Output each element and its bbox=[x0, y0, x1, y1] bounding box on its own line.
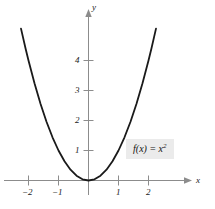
y-axis-arrowhead bbox=[85, 9, 91, 17]
y-axis-label: y bbox=[92, 3, 96, 12]
y-tick-label-3: 3 bbox=[75, 86, 80, 95]
y-tick-label-1: 1 bbox=[75, 146, 80, 155]
function-graph-figure: −2 −1 1 2 1 2 3 4 x y f(x)=x2 bbox=[0, 0, 215, 209]
y-tick-label-4: 4 bbox=[75, 56, 80, 65]
x-tick-label-1: 1 bbox=[116, 188, 121, 197]
plot-canvas bbox=[0, 0, 215, 209]
equation-rhs-exponent: 2 bbox=[163, 142, 167, 150]
x-tick-label-2: 2 bbox=[146, 188, 151, 197]
x-axis-label: x bbox=[196, 176, 200, 185]
x-tick-label--2: −2 bbox=[22, 188, 33, 197]
equation-equals-sign: = bbox=[147, 143, 159, 154]
y-tick-label-2: 2 bbox=[75, 116, 80, 125]
x-tick-label--1: −1 bbox=[52, 188, 63, 197]
equation-annotation: f(x)=x2 bbox=[126, 139, 174, 159]
x-axis-arrowhead bbox=[184, 177, 192, 183]
